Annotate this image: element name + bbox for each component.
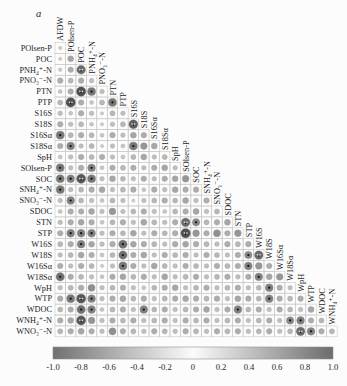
correlation-circle (183, 209, 189, 215)
correlation-cell (141, 241, 147, 247)
colorbar-tick-label: -0.8 (74, 362, 88, 372)
correlation-cell (120, 176, 125, 181)
correlation-cell (244, 262, 252, 270)
correlation-circle (152, 242, 157, 247)
correlation-cell (78, 252, 84, 258)
correlation-circle (58, 100, 63, 105)
significance-mark (268, 287, 270, 289)
correlation-cell (109, 208, 116, 215)
row-label: S16Sα (30, 131, 53, 140)
correlation-circle (68, 220, 74, 226)
correlation-circle (141, 154, 147, 160)
row-label: PNH₄⁺-N (19, 66, 52, 75)
correlation-cell (276, 273, 283, 280)
correlation-cell (141, 296, 147, 302)
correlation-circle (78, 154, 84, 160)
column-label: SOC (192, 166, 201, 183)
significance-mark (70, 199, 72, 201)
correlation-cell (204, 242, 209, 247)
correlation-cell (151, 187, 157, 193)
correlation-circle (77, 65, 86, 74)
correlation-circle (236, 275, 241, 280)
correlation-cell (56, 131, 64, 139)
correlation-circle (89, 144, 94, 149)
correlation-cell (76, 174, 85, 183)
correlation-circle (66, 98, 76, 108)
correlation-circle (254, 251, 263, 260)
correlation-cell (68, 155, 73, 160)
correlation-cell (100, 275, 104, 279)
correlation-cell (204, 275, 209, 280)
correlation-cell (58, 285, 63, 290)
significance-mark (237, 308, 239, 310)
correlation-cell (151, 329, 157, 335)
correlation-cell (265, 284, 273, 292)
correlation-circle (89, 263, 94, 268)
correlation-circle (58, 242, 63, 247)
correlation-cell (183, 274, 188, 279)
column-label: W18Sα (286, 255, 295, 281)
correlation-cell (204, 198, 210, 204)
correlation-circle (225, 274, 231, 280)
correlation-cell (152, 253, 157, 258)
correlation-circle (162, 296, 167, 301)
correlation-circle (266, 263, 272, 269)
correlation-circle (162, 307, 168, 313)
correlation-circle (215, 242, 220, 247)
correlation-cell (100, 318, 105, 323)
correlation-cell (141, 274, 147, 280)
correlation-circle (130, 241, 136, 247)
significance-mark (134, 123, 136, 125)
correlation-cell (121, 155, 125, 159)
correlation-circle (183, 274, 188, 279)
correlation-circle (110, 285, 115, 290)
correlation-circle (120, 318, 125, 323)
correlation-cell (120, 220, 126, 226)
correlation-cell (214, 263, 220, 269)
correlation-circle (78, 263, 84, 269)
correlation-circle (204, 209, 209, 214)
correlation-circle (121, 198, 126, 203)
correlation-cell (100, 112, 103, 115)
row-label: PTN (36, 87, 52, 96)
correlation-cell (110, 241, 116, 247)
correlation-cell (59, 46, 62, 49)
correlation-cell (87, 175, 95, 183)
correlation-circle (266, 274, 272, 280)
correlation-cell (183, 296, 189, 302)
correlation-cell (225, 296, 230, 301)
correlation-circle (215, 318, 220, 323)
correlation-circle (277, 285, 283, 291)
correlation-circle (214, 263, 220, 269)
correlation-circle (204, 285, 210, 291)
correlation-cell (215, 318, 220, 323)
correlation-cell (183, 187, 189, 193)
correlation-cell (131, 307, 136, 312)
correlation-cell (110, 318, 116, 324)
significance-mark (132, 145, 134, 147)
correlation-cell (89, 187, 95, 193)
correlation-circle (68, 155, 73, 160)
colorbar-tick-label: 1.0 (328, 362, 339, 372)
correlation-cell (151, 263, 157, 269)
correlation-circle (225, 329, 230, 334)
correlation-circle (183, 307, 188, 312)
correlation-cell (131, 187, 137, 193)
correlation-cell (266, 318, 272, 324)
correlation-cell (131, 285, 136, 290)
correlation-circle (142, 231, 147, 236)
correlation-circle (78, 328, 84, 334)
correlation-circle (78, 78, 84, 84)
correlation-circle (59, 46, 62, 49)
significance-mark (247, 265, 249, 267)
correlation-cell (78, 111, 84, 117)
column-label: PTN (109, 80, 118, 96)
correlation-circle (246, 274, 252, 280)
correlation-circle (58, 253, 63, 258)
correlation-circle (140, 143, 147, 150)
correlation-circle (100, 275, 104, 279)
correlation-cell (131, 252, 137, 258)
correlation-circle (99, 187, 105, 193)
correlation-cell (204, 252, 210, 258)
significance-mark (90, 298, 92, 300)
